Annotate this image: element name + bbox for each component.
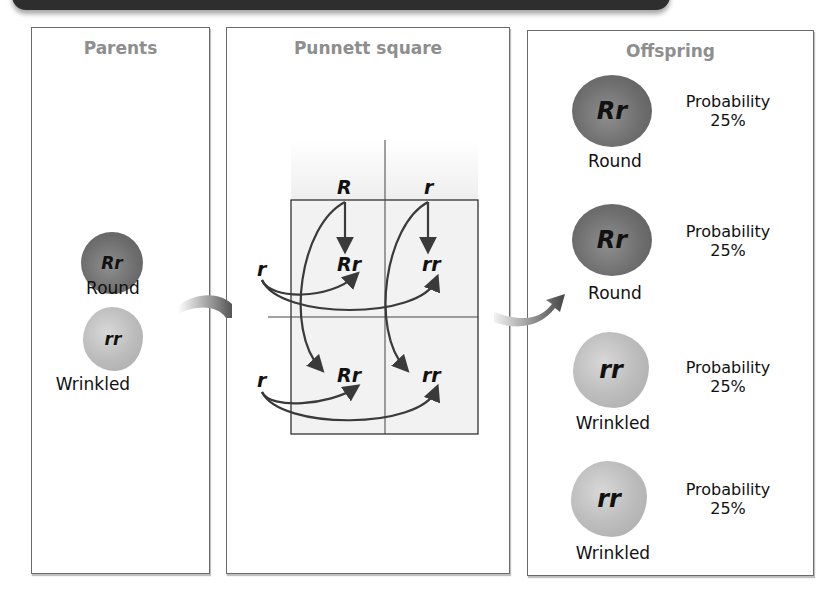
probability-label: Probability — [673, 92, 783, 111]
row-allele-2: r — [257, 369, 266, 391]
row-allele-1: r — [257, 258, 266, 280]
probability-value: 25% — [673, 241, 783, 260]
probability-label: Probability — [673, 358, 783, 377]
offspring-genotype-4: rr — [597, 485, 621, 513]
offspring-phenotype-4: Wrinkled — [553, 543, 673, 563]
cell-1-1: Rr — [337, 253, 361, 275]
offspring-phenotype-3: Wrinkled — [553, 413, 673, 433]
offspring-genotype-3: rr — [599, 356, 623, 384]
offspring-probability-3: Probability 25% — [673, 358, 783, 396]
offspring-genotype-1: Rr — [597, 97, 627, 125]
cell-2-1: Rr — [337, 364, 361, 386]
cell-2-2: rr — [422, 364, 441, 386]
column-allele-1: R — [337, 176, 352, 198]
offspring-phenotype-2: Round — [555, 283, 675, 303]
probability-value: 25% — [673, 499, 783, 518]
offspring-pea-1: Rr — [572, 75, 652, 147]
probability-label: Probability — [673, 222, 783, 241]
offspring-probability-4: Probability 25% — [673, 480, 783, 518]
offspring-phenotype-1: Round — [555, 151, 675, 171]
probability-label: Probability — [673, 480, 783, 499]
probability-value: 25% — [673, 377, 783, 396]
offspring-pea-3: rr — [573, 332, 649, 408]
cell-1-2: rr — [422, 253, 441, 275]
offspring-pea-2: Rr — [572, 204, 652, 276]
offspring-genotype-2: Rr — [597, 226, 627, 254]
offspring-pea-4: rr — [571, 461, 647, 537]
offspring-probability-2: Probability 25% — [673, 222, 783, 260]
column-allele-2: r — [424, 176, 433, 198]
parents-to-punnett-arrow — [178, 295, 232, 318]
offspring-probability-1: Probability 25% — [673, 92, 783, 130]
probability-value: 25% — [673, 111, 783, 130]
